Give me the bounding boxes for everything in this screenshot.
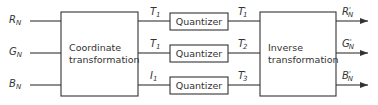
quantized-label-3: T'3 [238,71,248,83]
quantizer-2: Quantizer [170,49,228,59]
quantized-label-2: T'2 [238,39,248,51]
input-label-r: RN [9,15,21,27]
output-label-r: R'N [342,7,353,19]
color-coding-block-diagram: RN GN BN Coordinate transformation T1 T1… [0,0,378,105]
quantizer-3: Quantizer [170,81,228,91]
quantized-label-1: T'1 [238,7,248,19]
output-label-b: B'N [342,71,353,83]
intermediate-label-1: T1 [150,7,161,19]
input-label-g: GN [9,47,22,59]
coordinate-transformation-box: Coordinate transformation [69,42,140,66]
intermediate-label-2: T1 [150,39,161,51]
output-label-g: G'N [342,39,354,51]
inverse-transformation-box: Inverse transformation [268,42,339,66]
quantizer-1: Quantizer [170,17,228,27]
intermediate-label-3: I1 [150,71,157,83]
input-label-b: BN [9,79,21,91]
